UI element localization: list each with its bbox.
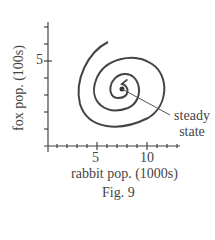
y-axis-label: fox pop. (100s) xyxy=(11,33,27,143)
annotation-leader-line xyxy=(122,89,170,115)
y-tick-label-5: 5 xyxy=(36,52,43,68)
x-axis-label: rabbit pop. (1000s) xyxy=(71,166,178,182)
x-tick-label-10: 10 xyxy=(140,150,154,166)
spiral-trajectory xyxy=(79,42,165,127)
x-tick-label-5: 5 xyxy=(92,150,99,166)
steady-state-label: steady state xyxy=(172,108,212,140)
figure-caption: Fig. 9 xyxy=(102,185,135,201)
axes xyxy=(44,22,180,152)
